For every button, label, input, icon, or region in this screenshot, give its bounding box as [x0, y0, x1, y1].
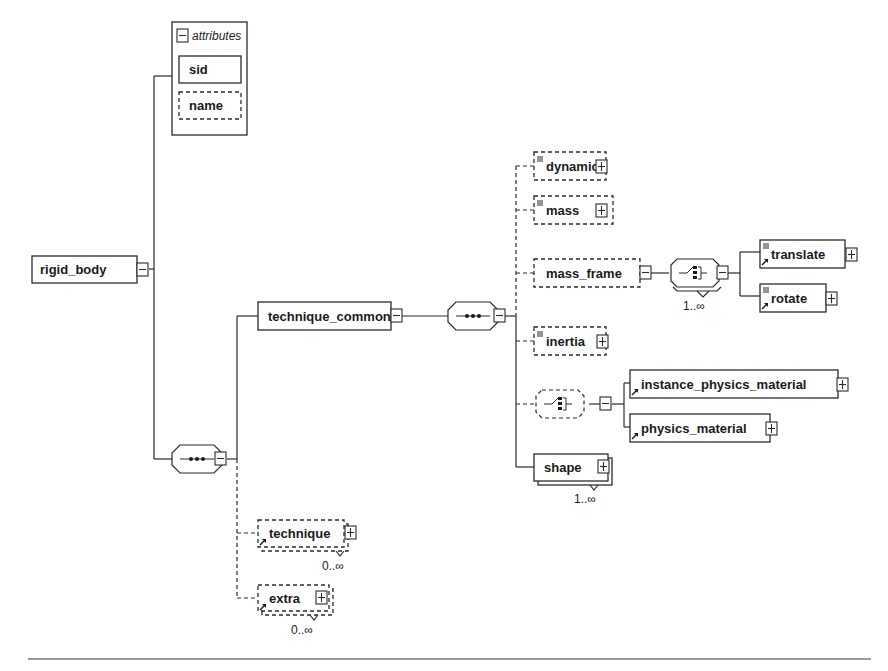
svg-text:technique: technique	[269, 526, 330, 541]
svg-text:technique_common: technique_common	[268, 309, 391, 324]
element-technique-common[interactable]: technique_common	[258, 302, 402, 330]
expand-dynamic-icon[interactable]	[596, 160, 607, 173]
collapse-rigid-body-icon[interactable]	[137, 263, 148, 276]
attributes-header: attributes	[192, 29, 241, 43]
collapse-material-choice-icon[interactable]	[600, 397, 611, 410]
svg-text:translate: translate	[771, 247, 825, 262]
expand-inertia-icon[interactable]	[597, 335, 608, 348]
expand-extra-icon[interactable]	[316, 591, 327, 604]
attribute-sid[interactable]: sid	[189, 62, 208, 77]
cardinality-label: 1..∞	[683, 299, 705, 313]
cardinality-label: 0..∞	[291, 623, 313, 637]
element-physics-material[interactable]: physics_material	[630, 414, 777, 442]
svg-text:mass: mass	[546, 203, 579, 218]
schema-diagram: attributes sid name rigid_body technique…	[0, 0, 888, 671]
expand-shape-icon[interactable]	[598, 460, 609, 473]
collapse-sequence-icon[interactable]	[215, 452, 226, 465]
svg-text:mass_frame: mass_frame	[546, 266, 622, 281]
collapse-mass-frame-icon[interactable]	[640, 266, 651, 279]
svg-text:extra: extra	[269, 591, 301, 606]
svg-text:inertia: inertia	[546, 334, 586, 349]
collapse-choice-icon[interactable]	[717, 266, 728, 279]
expand-instance-physics-material-icon[interactable]	[837, 378, 848, 391]
cardinality-label: 0..∞	[322, 559, 344, 573]
sequence-compositor-technique-common[interactable]	[448, 302, 505, 330]
expand-rotate-icon[interactable]	[826, 292, 837, 305]
element-instance-physics-material[interactable]: instance_physics_material	[630, 370, 848, 398]
collapse-attributes-icon[interactable]	[177, 29, 188, 42]
collapse-tc-sequence-icon[interactable]	[494, 309, 505, 322]
expand-physics-material-icon[interactable]	[766, 422, 777, 435]
bottom-separator	[28, 658, 871, 660]
svg-text:dynamic: dynamic	[546, 159, 599, 174]
element-translate[interactable]: translate	[760, 240, 857, 268]
element-inertia[interactable]: inertia	[534, 327, 608, 355]
svg-text:rotate: rotate	[771, 291, 807, 306]
expand-translate-icon[interactable]	[846, 248, 857, 261]
attributes-group: attributes sid name	[172, 22, 247, 135]
svg-text:shape: shape	[544, 460, 582, 475]
attribute-name[interactable]: name	[189, 98, 223, 113]
element-extra[interactable]: extra 0..∞	[258, 585, 333, 637]
element-mass-frame[interactable]: mass_frame	[534, 259, 651, 287]
element-mass[interactable]: mass	[534, 196, 613, 224]
choice-compositor-material[interactable]	[536, 390, 611, 418]
expand-mass-icon[interactable]	[596, 204, 607, 217]
sequence-compositor-root[interactable]	[172, 445, 226, 473]
svg-text:rigid_body: rigid_body	[40, 262, 107, 277]
cardinality-label: 1..∞	[574, 492, 596, 506]
svg-text:physics_material: physics_material	[641, 421, 747, 436]
choice-compositor-mass-frame[interactable]: 1..∞	[671, 259, 728, 313]
element-shape[interactable]: shape 1..∞	[534, 454, 612, 506]
element-dynamic[interactable]: dynamic	[534, 152, 607, 180]
svg-text:instance_physics_material: instance_physics_material	[641, 377, 806, 392]
element-technique[interactable]: technique 0..∞	[258, 520, 356, 573]
collapse-technique-common-icon[interactable]	[391, 309, 402, 322]
element-rotate[interactable]: rotate	[760, 284, 837, 312]
element-rigid-body[interactable]: rigid_body	[32, 256, 148, 283]
expand-technique-icon[interactable]	[345, 526, 356, 539]
